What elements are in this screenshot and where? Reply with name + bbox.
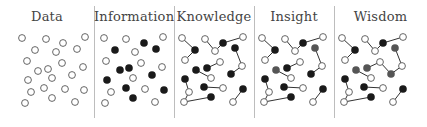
highlighted-node-icon xyxy=(352,66,360,74)
filled-node-icon xyxy=(399,85,407,93)
filled-node-icon xyxy=(111,46,119,54)
open-node-icon xyxy=(342,57,349,64)
filled-node-icon xyxy=(280,83,288,91)
filled-node-icon xyxy=(129,94,137,102)
filled-node-icon xyxy=(207,93,215,101)
highlighted-node-icon xyxy=(272,66,280,74)
open-node-icon xyxy=(202,36,209,43)
filled-node-icon xyxy=(192,66,200,74)
open-node-icon xyxy=(346,89,353,96)
open-node-icon xyxy=(69,72,76,79)
filled-node-icon xyxy=(103,76,111,84)
open-node-icon xyxy=(380,85,387,92)
edge-line xyxy=(184,97,211,102)
filled-node-icon xyxy=(140,39,148,47)
open-node-icon xyxy=(217,59,224,66)
open-node-icon xyxy=(142,86,149,93)
open-node-icon xyxy=(72,99,79,106)
filled-node-icon xyxy=(379,39,387,47)
filled-node-icon xyxy=(287,93,295,101)
open-node-icon xyxy=(32,47,39,54)
open-node-icon xyxy=(300,85,307,92)
open-node-icon xyxy=(123,36,130,43)
filled-node-icon xyxy=(125,64,133,72)
open-node-icon xyxy=(399,63,406,70)
open-node-icon xyxy=(368,75,375,82)
filled-node-icon xyxy=(181,75,189,83)
filled-node-icon xyxy=(200,83,208,91)
open-node-icon xyxy=(19,35,26,42)
open-node-icon xyxy=(102,100,109,107)
filled-node-icon xyxy=(341,75,349,83)
node-graph xyxy=(0,0,427,127)
open-node-icon xyxy=(282,36,289,43)
open-node-icon xyxy=(160,34,167,41)
open-node-icon xyxy=(103,58,110,65)
edge-line xyxy=(344,97,371,102)
filled-node-icon xyxy=(283,64,291,72)
open-node-icon xyxy=(339,35,346,42)
open-node-icon xyxy=(45,66,52,73)
open-node-icon xyxy=(132,49,139,56)
filled-node-icon xyxy=(219,39,227,47)
open-node-icon xyxy=(261,99,268,106)
open-node-icon xyxy=(390,99,397,106)
highlighted-node-icon xyxy=(363,64,371,72)
filled-node-icon xyxy=(231,44,239,52)
open-node-icon xyxy=(377,59,384,66)
open-node-icon xyxy=(108,89,115,96)
open-node-icon xyxy=(266,89,273,96)
filled-node-icon xyxy=(351,46,359,54)
open-node-icon xyxy=(81,87,88,94)
filled-node-icon xyxy=(239,85,247,93)
open-node-icon xyxy=(310,99,317,106)
filled-node-icon xyxy=(227,70,235,78)
open-node-icon xyxy=(60,40,67,47)
filled-node-icon xyxy=(360,83,368,91)
open-node-icon xyxy=(220,85,227,92)
filled-node-icon xyxy=(299,39,307,47)
filled-node-icon xyxy=(319,85,327,93)
highlighted-node-icon xyxy=(387,70,395,78)
open-node-icon xyxy=(49,95,56,102)
filled-node-icon xyxy=(203,64,211,72)
filled-node-icon xyxy=(160,86,168,94)
edge-line xyxy=(264,97,291,102)
open-node-icon xyxy=(41,85,48,92)
open-node-icon xyxy=(53,49,60,56)
open-node-icon xyxy=(230,99,237,106)
open-node-icon xyxy=(43,36,50,43)
filled-node-icon xyxy=(191,46,199,54)
open-node-icon xyxy=(259,35,266,42)
open-node-icon xyxy=(182,57,189,64)
open-node-icon xyxy=(80,64,87,71)
open-node-icon xyxy=(82,34,89,41)
open-node-icon xyxy=(288,75,295,82)
open-node-icon xyxy=(25,77,32,84)
filled-node-icon xyxy=(122,84,130,92)
open-node-icon xyxy=(186,89,193,96)
open-node-icon xyxy=(292,48,299,55)
filled-node-icon xyxy=(367,93,375,101)
open-node-icon xyxy=(59,60,66,67)
open-node-icon xyxy=(138,60,145,67)
open-node-icon xyxy=(372,48,379,55)
open-node-icon xyxy=(22,100,29,107)
filled-node-icon xyxy=(271,46,279,54)
open-node-icon xyxy=(297,59,304,66)
highlighted-node-icon xyxy=(311,44,319,52)
open-node-icon xyxy=(341,99,348,106)
open-node-icon xyxy=(62,86,69,93)
open-node-icon xyxy=(262,57,269,64)
open-node-icon xyxy=(319,63,326,70)
highlighted-node-icon xyxy=(391,44,399,52)
open-node-icon xyxy=(152,99,159,106)
open-node-icon xyxy=(130,75,137,82)
open-node-icon xyxy=(362,36,369,43)
filled-node-icon xyxy=(307,70,315,78)
filled-node-icon xyxy=(152,45,160,53)
open-node-icon xyxy=(159,64,166,71)
open-node-icon xyxy=(179,35,186,42)
open-node-icon xyxy=(24,58,31,65)
open-node-icon xyxy=(35,68,42,75)
